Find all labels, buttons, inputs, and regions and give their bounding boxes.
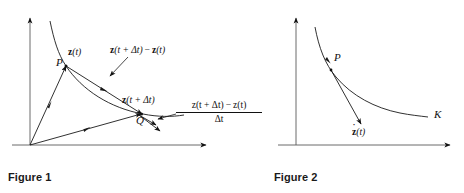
figure-1-point-P-dot	[65, 65, 68, 68]
figure-1-caption: Figure 1	[8, 171, 52, 183]
difference-tail-argument: (t)	[156, 45, 165, 55]
figure-2-curve-direction-arrow	[325, 57, 331, 63]
figure-2-label-z-dot-of-t: ˙z(t)	[352, 128, 365, 138]
quotient-denominator: Δt	[176, 113, 262, 124]
figure-1-label-difference-vector: z(t + Δt)−z(t)	[110, 46, 165, 56]
z-of-t-argument: (t)	[72, 47, 81, 57]
figure-board: P z(t) z(t + Δt)−z(t) z(t + Δt) Q z(t + …	[0, 0, 464, 193]
difference-lead-argument: (t + Δt)	[114, 45, 142, 55]
figure-1-point-label-Q: Q	[136, 114, 144, 126]
figure-2-derivative-vector	[331, 70, 361, 124]
quotient-numerator-operator: −	[224, 100, 233, 110]
figure-2-graphic	[278, 18, 450, 145]
figure-1-position-vector-Q-midarrow	[83, 127, 90, 132]
figure-1-position-vector-P	[30, 66, 66, 145]
figure-1-chord-midarrow	[100, 87, 108, 91]
figure-1-label-z-of-t-plus-dt: z(t + Δt)	[122, 96, 155, 106]
difference-operator: −	[143, 45, 152, 55]
quotient-numerator: z(t + Δt)−z(t)	[176, 100, 262, 111]
figure-1-difference-leader	[110, 57, 128, 76]
figure-1-point-label-P: P	[56, 56, 63, 68]
vector-z-dot-glyph: ˙z	[352, 128, 356, 138]
figure-1-graphic	[12, 18, 206, 145]
figures-vector-graphics	[0, 0, 464, 193]
figure-2-caption: Figure 2	[274, 171, 318, 183]
z-dot-accent: ˙	[353, 123, 356, 132]
z-of-t-plus-dt-argument: (t + Δt)	[126, 95, 154, 105]
quotient-numerator-tail-argument: (t)	[237, 100, 246, 110]
figure-2-point-P-dot	[330, 69, 333, 72]
z-dot-argument: (t)	[356, 127, 365, 137]
figure-1-label-z-of-t: z(t)	[68, 48, 81, 58]
figure-2-curve-label-K: K	[434, 108, 441, 120]
figure-1-label-difference-quotient: z(t + Δt)−z(t) Δt	[176, 100, 262, 125]
quotient-numerator-lead-argument: (t + Δt)	[196, 100, 224, 110]
figure-2-point-label-P: P	[334, 51, 341, 63]
